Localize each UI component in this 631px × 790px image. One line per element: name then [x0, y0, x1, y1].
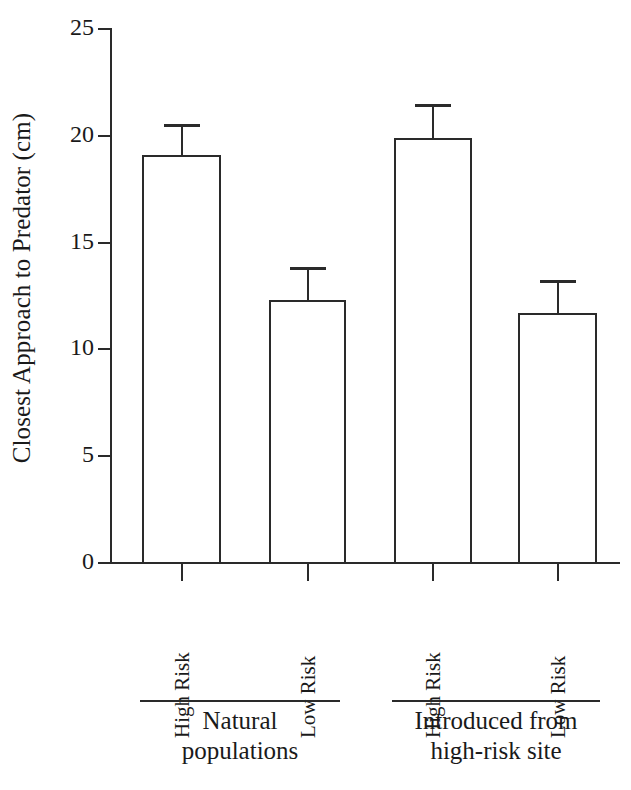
- y-tick-label-0: 0: [48, 549, 94, 573]
- x-tick: [307, 564, 309, 581]
- bar: [394, 138, 472, 564]
- y-tick-0: [98, 562, 112, 564]
- error-bar-cap: [290, 267, 326, 270]
- error-bar-cap: [540, 280, 576, 283]
- y-tick-label-5: 5: [48, 442, 94, 466]
- y-tick-label-10: 10: [48, 335, 94, 359]
- error-bar-stem: [307, 267, 309, 300]
- group-label-line: Natural: [140, 706, 340, 736]
- x-tick: [181, 564, 183, 581]
- y-tick-10: [98, 348, 112, 350]
- error-bar-cap: [415, 104, 451, 107]
- group-rule: [140, 700, 340, 702]
- group-label-line: populations: [140, 736, 340, 766]
- y-tick-label-20: 20: [48, 122, 94, 146]
- bar: [518, 313, 597, 564]
- y-axis-title-text: Closest Approach to Predator (cm): [8, 112, 36, 462]
- y-tick-25: [98, 28, 112, 30]
- y-tick-label-25: 25: [48, 15, 94, 39]
- bar-chart-figure: Closest Approach to Predator (cm) 051015…: [0, 0, 631, 790]
- y-axis-title: Closest Approach to Predator (cm): [0, 0, 44, 575]
- y-tick-20: [98, 135, 112, 137]
- error-bar-cap: [164, 124, 200, 127]
- y-tick-5: [98, 455, 112, 457]
- error-bar-stem: [432, 104, 434, 138]
- error-bar-stem: [181, 124, 183, 155]
- x-tick: [432, 564, 434, 581]
- bar: [142, 155, 221, 564]
- group-label-line: high-risk site: [392, 736, 600, 766]
- y-tick-15: [98, 242, 112, 244]
- bar: [269, 300, 346, 564]
- group-label-line: Introduced from: [392, 706, 600, 736]
- y-tick-label-15: 15: [48, 229, 94, 253]
- x-tick: [557, 564, 559, 581]
- y-axis-line: [110, 28, 112, 564]
- error-bar-stem: [557, 280, 559, 313]
- group-label: Naturalpopulations: [140, 706, 340, 765]
- group-rule: [392, 700, 600, 702]
- group-label: Introduced fromhigh-risk site: [392, 706, 600, 765]
